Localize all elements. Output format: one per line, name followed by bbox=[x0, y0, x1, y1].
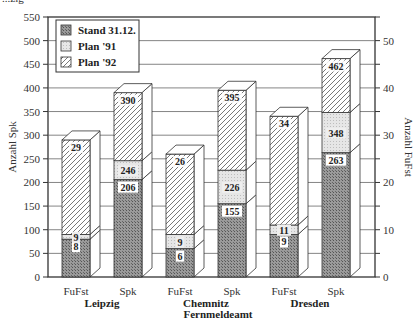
bar-value-label: 26 bbox=[175, 156, 185, 167]
right-axis-title: Anzahl FuFst bbox=[403, 117, 415, 177]
left-axis-title: Anzahl Spk bbox=[6, 121, 18, 173]
legend-swatch-stand bbox=[61, 25, 71, 35]
bar-dresden-spk: 263348462 bbox=[322, 50, 360, 277]
bar-value-label: 34 bbox=[279, 118, 289, 129]
bar-value-label: 29 bbox=[71, 142, 81, 153]
bar-value-label: 6 bbox=[178, 251, 183, 262]
right-tick-label: 0 bbox=[383, 271, 389, 283]
legend-label-stand: Stand 31.12. bbox=[78, 24, 136, 36]
x-group-label: Dresden bbox=[291, 297, 330, 309]
left-tick-label: 0 bbox=[35, 271, 41, 283]
bar-value-label: 226 bbox=[225, 182, 240, 193]
right-axis-ticks: 01020304050 bbox=[375, 17, 395, 283]
bar-dresden-fufst: 91134 bbox=[270, 107, 308, 277]
bar-value-label: 11 bbox=[279, 225, 288, 236]
left-tick-label: 250 bbox=[24, 153, 41, 165]
left-tick-label: 100 bbox=[24, 224, 41, 236]
left-tick-label: 350 bbox=[24, 106, 41, 118]
bar-value-label: 462 bbox=[329, 61, 344, 72]
legend-swatch-plan91 bbox=[61, 41, 71, 51]
x-axis-title: Fernmeldeamt bbox=[183, 308, 252, 320]
bar-value-label: 395 bbox=[225, 92, 240, 103]
right-tick-label: 20 bbox=[383, 176, 395, 188]
bar-value-label: 9 bbox=[282, 236, 287, 247]
left-tick-label: 550 bbox=[24, 11, 41, 23]
legend-label-plan92: Plan '92 bbox=[78, 56, 117, 68]
x-category-label: Spk bbox=[327, 285, 345, 297]
legend: Stand 31.12. Plan '91 Plan '92 bbox=[56, 20, 139, 72]
bar-chemnitz-fufst: 6926 bbox=[166, 145, 204, 277]
x-group-label: Leipzig bbox=[85, 297, 120, 309]
bar-value-label: 390 bbox=[121, 95, 136, 106]
bar-value-label: 155 bbox=[225, 206, 240, 217]
bar-chemnitz-spk: 155226395 bbox=[218, 81, 256, 277]
bar-value-label: 206 bbox=[121, 182, 136, 193]
bar-value-label: 8 bbox=[74, 241, 79, 252]
left-tick-label: 300 bbox=[24, 129, 41, 141]
left-axis-ticks: 050100150200250300350400450500550 bbox=[24, 11, 49, 283]
right-tick-label: 50 bbox=[383, 35, 395, 47]
bar-leipzig-fufst: 8929 bbox=[62, 131, 100, 277]
x-category-label: Spk bbox=[119, 285, 137, 297]
stacked-bar-chart: 050100150200250300350400450500550 010203… bbox=[0, 0, 415, 322]
x-category-label: FuFst bbox=[63, 285, 88, 297]
bar-value-label: 246 bbox=[121, 165, 136, 176]
x-category-label: Spk bbox=[223, 285, 241, 297]
right-tick-label: 30 bbox=[383, 129, 395, 141]
x-category-label: FuFst bbox=[167, 285, 192, 297]
right-tick-label: 40 bbox=[383, 82, 395, 94]
legend-label-plan91: Plan '91 bbox=[78, 40, 116, 52]
bar-value-label: 348 bbox=[329, 128, 344, 139]
bar-value-label: 9 bbox=[74, 232, 79, 243]
left-tick-label: 200 bbox=[24, 176, 41, 188]
left-tick-label: 150 bbox=[24, 200, 41, 212]
bar-value-label: 263 bbox=[329, 155, 344, 166]
legend-swatch-plan92 bbox=[61, 57, 71, 67]
x-axis-labels: FuFstSpkFuFstSpkFuFstSpkLeipzigChemnitzD… bbox=[63, 285, 345, 309]
x-category-label: FuFst bbox=[271, 285, 296, 297]
left-tick-label: 400 bbox=[24, 82, 41, 94]
bar-leipzig-spk: 206246390 bbox=[114, 84, 152, 277]
left-tick-label: 50 bbox=[29, 247, 41, 259]
bar-value-label: 9 bbox=[178, 237, 183, 248]
right-tick-label: 10 bbox=[383, 224, 395, 236]
left-tick-label: 450 bbox=[24, 58, 41, 70]
left-tick-label: 500 bbox=[24, 35, 41, 47]
